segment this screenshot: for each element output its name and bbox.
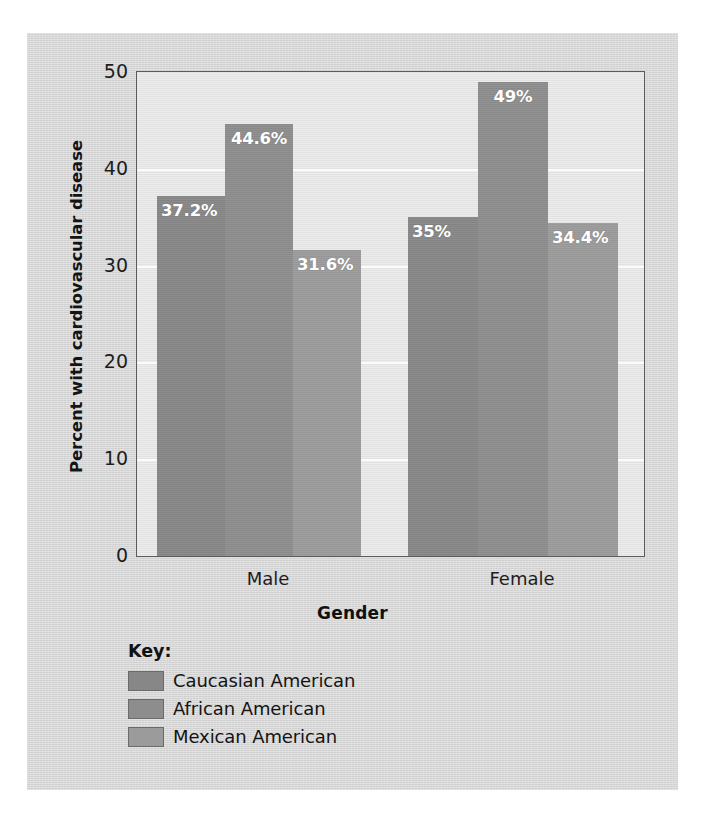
bar-value-label: 37.2% bbox=[157, 201, 229, 220]
bar-value-label: 34.4% bbox=[548, 228, 622, 247]
legend-label: African American bbox=[173, 698, 326, 719]
bar-female-african: 49% bbox=[478, 82, 548, 556]
plot-area: 37.2% 44.6% 31.6% 35% 49% 34.4% bbox=[136, 71, 645, 557]
bar-female-mexican: 34.4% bbox=[548, 223, 618, 556]
y-tick-label: 20 bbox=[104, 350, 128, 372]
y-tick-label: 50 bbox=[104, 60, 128, 82]
bar-value-label: 49% bbox=[478, 87, 548, 106]
bar-male-mexican: 31.6% bbox=[293, 250, 361, 556]
x-axis-title: Gender bbox=[27, 603, 678, 623]
bar-male-caucasian: 37.2% bbox=[157, 196, 225, 556]
legend-label: Caucasian American bbox=[173, 670, 355, 691]
bar-female-caucasian: 35% bbox=[408, 217, 478, 556]
y-tick-label: 10 bbox=[104, 447, 128, 469]
y-tick-label: 0 bbox=[116, 544, 128, 566]
chart-legend: Key: Caucasian American African American… bbox=[128, 641, 355, 751]
legend-title: Key: bbox=[128, 641, 355, 661]
y-tick-label: 40 bbox=[104, 157, 128, 179]
legend-item-mexican-american: Mexican American bbox=[128, 723, 355, 750]
figure-panel: Percent with cardiovascular disease 50 4… bbox=[27, 33, 678, 790]
legend-swatch-caucasian-american bbox=[128, 671, 164, 691]
bar-male-african: 44.6% bbox=[225, 124, 293, 556]
bar-value-label: 31.6% bbox=[293, 255, 365, 274]
gridline-40 bbox=[137, 169, 644, 171]
x-category-label-female: Female bbox=[407, 568, 637, 589]
y-tick-label: 30 bbox=[104, 254, 128, 276]
bar-value-label: 44.6% bbox=[225, 129, 293, 148]
legend-label: Mexican American bbox=[173, 726, 337, 747]
legend-item-caucasian-american: Caucasian American bbox=[128, 667, 355, 694]
legend-swatch-african-american bbox=[128, 699, 164, 719]
legend-swatch-mexican-american bbox=[128, 727, 164, 747]
y-axis-tick-labels: 50 40 30 20 10 0 bbox=[82, 33, 128, 790]
legend-item-african-american: African American bbox=[128, 695, 355, 722]
bar-value-label: 35% bbox=[408, 222, 482, 241]
x-category-label-male: Male bbox=[156, 568, 380, 589]
